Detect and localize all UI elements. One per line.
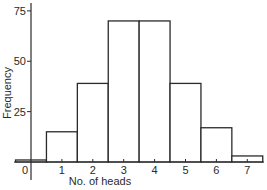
y-tick-label: 50 — [14, 55, 26, 67]
bar-2 — [77, 83, 108, 162]
bar-4 — [139, 21, 170, 162]
x-tick-label: 1 — [59, 164, 65, 176]
bar-1 — [46, 132, 77, 162]
y-ticks-group: 255075 — [14, 5, 31, 118]
x-tick-label: 5 — [182, 164, 188, 176]
y-tick-label: 75 — [14, 5, 26, 17]
histogram-chart: 255075 01234567 No. of heads Frequency — [0, 0, 267, 190]
y-tick-label: 25 — [14, 106, 26, 118]
bar-5 — [170, 83, 201, 162]
bars-group — [16, 21, 263, 162]
bar-3 — [108, 21, 139, 162]
x-tick-label: 4 — [152, 164, 158, 176]
y-axis-label: Frequency — [1, 67, 13, 119]
x-tick-label: 0 — [22, 164, 28, 176]
bar-6 — [201, 128, 232, 162]
x-axis-label: No. of heads — [69, 175, 132, 187]
x-tick-label: 7 — [244, 164, 250, 176]
x-tick-label: 6 — [213, 164, 219, 176]
